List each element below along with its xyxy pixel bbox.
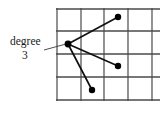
degree-label: degree [10, 35, 41, 48]
graph-vertex-upper-right [115, 14, 121, 20]
degree-value-label: 3 [22, 49, 28, 61]
graph-vertex-lower-middle [89, 87, 95, 93]
graph-vertex-center [65, 41, 72, 48]
graph-vertex-middle-right [115, 63, 121, 69]
graph-degree-figure: degree 3 [0, 0, 166, 116]
figure-screenshot: degree 3 [0, 0, 166, 116]
